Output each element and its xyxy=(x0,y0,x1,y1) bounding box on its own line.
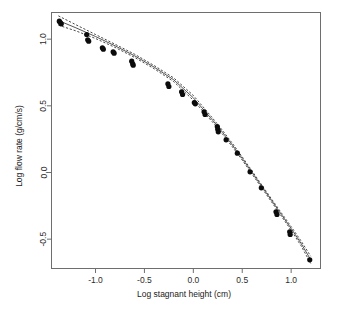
data-point xyxy=(274,212,279,217)
y-tick-label: 1.0 xyxy=(39,33,49,45)
y-tick-label: 0.0 xyxy=(39,166,49,178)
data-point xyxy=(224,137,229,142)
data-point xyxy=(193,101,198,106)
plot-background xyxy=(0,0,337,314)
y-tick-label: -0.5 xyxy=(39,232,49,247)
data-point xyxy=(235,151,240,156)
data-point xyxy=(180,92,185,97)
chart-container: -1.0-0.50.00.51.0 1.00.50.0-0.5 Log stag… xyxy=(0,0,337,314)
data-point xyxy=(166,84,171,89)
data-point xyxy=(307,257,312,262)
data-point xyxy=(59,21,64,26)
data-point xyxy=(86,39,91,44)
data-point xyxy=(216,129,221,134)
x-tick-label: 0.5 xyxy=(236,275,248,285)
data-point xyxy=(202,112,207,117)
x-tick-label: -0.5 xyxy=(137,275,152,285)
data-point xyxy=(247,169,252,174)
x-tick-label: -1.0 xyxy=(88,275,103,285)
data-point xyxy=(131,63,136,68)
data-point xyxy=(101,47,106,52)
scatter-plot: -1.0-0.50.00.51.0 1.00.50.0-0.5 Log stag… xyxy=(0,0,337,314)
data-point xyxy=(259,185,264,190)
x-tick-label: 0.0 xyxy=(187,275,199,285)
data-point xyxy=(112,51,117,56)
data-point xyxy=(288,232,293,237)
x-axis-title: Log stagnant height (cm) xyxy=(137,289,231,299)
y-axis-title: Log flow rate (g/cm/s) xyxy=(14,105,24,187)
x-tick-label: 1.0 xyxy=(285,275,297,285)
data-point xyxy=(84,32,89,37)
y-tick-label: 0.5 xyxy=(39,100,49,112)
